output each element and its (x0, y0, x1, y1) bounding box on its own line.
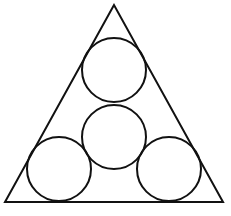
circle-bottom-left (27, 137, 91, 201)
circles-group (27, 38, 201, 201)
triangle-circles-diagram (0, 0, 231, 216)
circle-bottom-right (137, 137, 201, 201)
circle-top (82, 38, 146, 102)
outer-triangle (5, 5, 223, 202)
circle-middle (82, 105, 146, 169)
